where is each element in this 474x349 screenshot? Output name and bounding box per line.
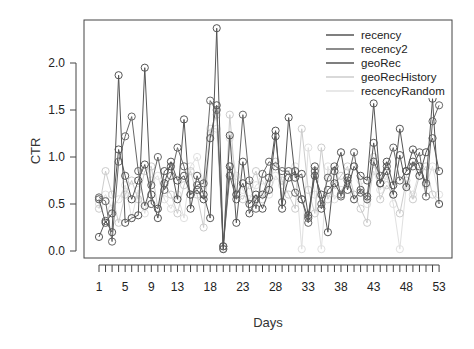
x-tick-label: 28 <box>269 280 283 294</box>
y-tick-label: 1.5 <box>48 103 65 117</box>
x-tick-label: 23 <box>236 280 250 294</box>
x-tick-label: 9 <box>148 280 155 294</box>
x-tick-label: 18 <box>204 280 218 294</box>
x-tick-label: 43 <box>367 280 381 294</box>
legend-label: geoRec <box>361 57 401 69</box>
y-tick-label: 0.0 <box>48 244 65 258</box>
x-tick-label: 38 <box>334 280 348 294</box>
x-axis-title: Days <box>253 315 283 330</box>
legend-label: recency <box>361 29 402 41</box>
y-tick-label: 2.0 <box>48 56 65 70</box>
legend-label: recency2 <box>361 43 408 55</box>
x-tick-label: 48 <box>400 280 414 294</box>
y-axis-title: CTR <box>28 138 43 165</box>
x-tick-label: 53 <box>432 280 446 294</box>
x-tick-label: 1 <box>96 280 103 294</box>
legend-label: recencyRandom <box>361 85 445 97</box>
x-tick-label: 13 <box>171 280 185 294</box>
ctr-line-chart: 0.00.51.01.52.0 159131823283338434853 CT… <box>0 0 474 349</box>
x-axis: 159131823283338434853 <box>96 265 446 294</box>
x-tick-label: 33 <box>302 280 316 294</box>
legend: recencyrecency2geoRecgeoRecHistoryrecenc… <box>316 26 448 98</box>
x-tick-label: 5 <box>122 280 129 294</box>
y-axis: 0.00.51.01.52.0 <box>48 56 76 258</box>
legend-label: geoRecHistory <box>361 71 437 83</box>
y-tick-label: 1.0 <box>48 150 65 164</box>
y-tick-label: 0.5 <box>48 197 65 211</box>
